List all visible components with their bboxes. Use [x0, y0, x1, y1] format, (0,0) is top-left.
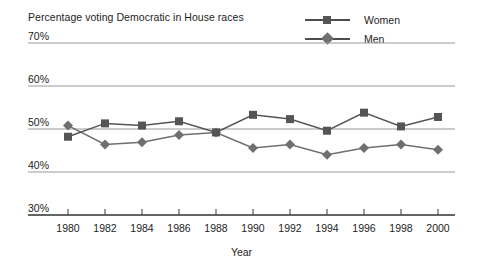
data-point-marker: [322, 150, 332, 160]
x-axis-tick-label: 1994: [315, 222, 338, 234]
data-point-marker: [360, 109, 368, 117]
y-axis-tick-label: 50%: [28, 116, 49, 128]
data-point-marker: [174, 130, 184, 140]
y-axis-tick-label: 60%: [28, 73, 49, 85]
y-axis-tick-label: 70%: [28, 30, 49, 42]
data-point-marker: [64, 133, 72, 141]
y-axis-tick-label: 40%: [28, 159, 49, 171]
data-point-marker: [138, 122, 146, 130]
data-point-marker: [285, 139, 295, 149]
gridlines: [28, 43, 455, 215]
series-men: [63, 121, 443, 160]
data-point-marker: [323, 127, 331, 135]
x-axis-tick-label: 1982: [93, 222, 116, 234]
data-point-marker: [433, 145, 443, 155]
data-point-marker: [248, 143, 258, 153]
x-axis-ticks: [68, 209, 438, 215]
data-point-marker: [101, 119, 109, 127]
data-point-marker: [286, 115, 294, 123]
data-point-marker: [359, 143, 369, 153]
series-women: [64, 109, 442, 141]
x-axis-tick-label: 1998: [389, 222, 412, 234]
data-point-marker: [175, 117, 183, 125]
x-axis-tick-label: 1980: [56, 222, 79, 234]
data-point-marker: [397, 122, 405, 130]
chart-container: Percentage voting Democratic in House ra…: [0, 0, 483, 270]
x-axis-title: Year: [0, 246, 483, 258]
x-axis-tick-label: 2000: [426, 222, 449, 234]
data-point-marker: [434, 113, 442, 121]
x-axis-tick-label: 1990: [241, 222, 264, 234]
x-axis-tick-label: 1988: [204, 222, 227, 234]
y-axis-tick-label: 30%: [28, 202, 49, 214]
data-point-marker: [137, 137, 147, 147]
x-axis-tick-label: 1986: [167, 222, 190, 234]
data-point-marker: [396, 139, 406, 149]
x-axis-tick-label: 1996: [352, 222, 375, 234]
data-point-marker: [249, 111, 257, 119]
data-point-marker: [100, 139, 110, 149]
data-point-marker: [212, 128, 220, 136]
x-axis-tick-label: 1984: [130, 222, 153, 234]
x-axis-tick-label: 1992: [278, 222, 301, 234]
